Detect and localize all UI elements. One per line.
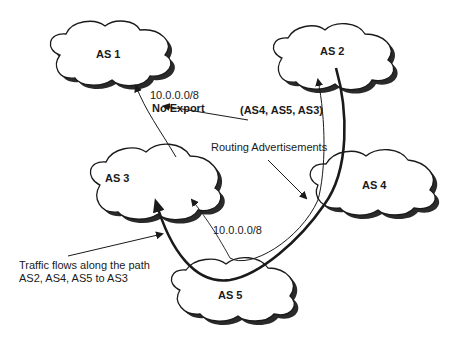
cloud-as2 — [273, 24, 397, 94]
pointer-ra-right — [268, 160, 306, 198]
traffic-flow-label-line1: Traffic flows along the path — [19, 259, 150, 272]
pointer-traffic — [68, 234, 162, 256]
as1-label: AS 1 — [96, 48, 120, 61]
routing-advertisements-label: Routing Advertisements — [211, 141, 327, 154]
prefix-to-as1-label: 10.0.0.0/8 — [150, 89, 199, 102]
as2-label: AS 2 — [320, 45, 344, 58]
as5-label: AS 5 — [218, 289, 242, 302]
prefix-from-as3-label: 10.0.0.0/8 — [213, 224, 262, 237]
as4-label: AS 4 — [362, 179, 386, 192]
traffic-flow-label-line2: AS2, AS4, AS5 to AS3 — [19, 272, 128, 285]
no-export-label: No Export — [152, 102, 205, 115]
as-path-label: (AS4, AS5, AS3) — [240, 104, 323, 117]
as3-label: AS 3 — [105, 172, 129, 185]
